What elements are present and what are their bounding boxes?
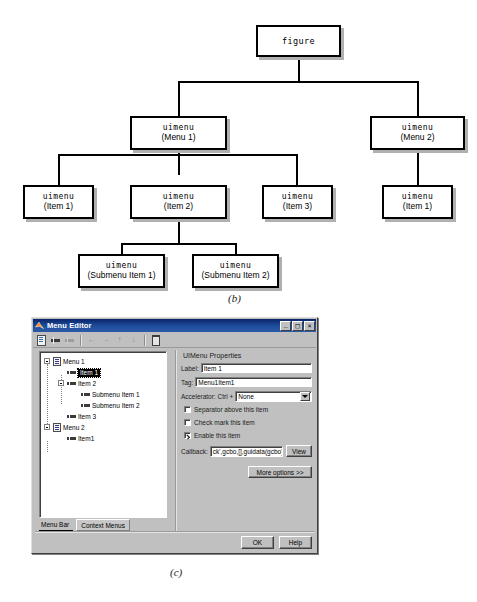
accelerator-value: None — [236, 392, 300, 401]
maximize-glyph: □ — [293, 322, 302, 330]
arrow-right-icon: → — [102, 336, 110, 344]
callback-input[interactable]: ck',gcbo,[],guidata(gcbo)) — [210, 446, 283, 457]
view-button[interactable]: View — [286, 445, 312, 457]
node-item3-label: (Item 3) — [283, 202, 312, 211]
move-up-button[interactable]: ↑ — [113, 334, 126, 347]
node-menu2-label: (Menu 2) — [400, 133, 434, 142]
node-item3-type: uimenu — [282, 193, 313, 201]
expander-placeholder — [71, 390, 80, 399]
enable-label: Enable this item — [194, 432, 240, 439]
tree-row-label: Menu 2 — [63, 424, 85, 432]
separator-checkbox[interactable] — [184, 406, 191, 413]
pane-tabs: Menu Bar Context Menus — [39, 519, 130, 531]
tab-context-menus[interactable]: Context Menus — [76, 519, 130, 531]
uimenu-hierarchy-diagram: figure uimenu (Menu 1) uimenu (Menu 2) u… — [0, 0, 477, 310]
tree-row-item2[interactable]: Item 2 — [43, 378, 166, 389]
edge-menu1-bus — [58, 154, 298, 156]
pane-divider — [175, 350, 177, 533]
window-titlebar[interactable]: Menu Editor _ □ × — [33, 319, 316, 332]
tab-menu-bar[interactable]: Menu Bar — [39, 519, 73, 531]
node-figure-type: figure — [282, 37, 315, 46]
move-left-button[interactable]: ← — [85, 334, 98, 347]
menu-icon — [53, 423, 61, 432]
expander-icon[interactable] — [57, 379, 66, 388]
node-item1-label: (Item 1) — [44, 202, 73, 211]
edge-item2-bus — [121, 243, 236, 245]
minimize-glyph: _ — [281, 322, 290, 330]
close-button[interactable]: × — [304, 321, 315, 331]
edge-item2-down — [178, 219, 180, 244]
maximize-button[interactable]: □ — [292, 321, 303, 331]
properties-pane: UIMenu Properties Label: Item 1 Tag: Men… — [181, 352, 312, 478]
expander-icon[interactable] — [43, 357, 52, 366]
close-glyph: × — [305, 322, 314, 330]
menu-tree-pane[interactable]: Menu 1 Item 1 Item 2 Submenu Item 1 — [39, 351, 167, 518]
properties-title: UIMenu Properties — [183, 352, 312, 359]
move-right-button[interactable]: → — [99, 334, 112, 347]
help-button[interactable]: Help — [279, 536, 312, 549]
node-menu1-type: uimenu — [163, 124, 194, 132]
editor-toolbar: ← → ↑ ↓ — [33, 333, 316, 348]
checkmark-row[interactable]: Check mark this item — [181, 419, 312, 426]
tree-row-label: Submenu Item 2 — [92, 402, 140, 410]
menu-editor-window: Menu Editor _ □ × ← → ↑ ↓ — [31, 317, 318, 554]
move-down-button[interactable]: ↓ — [127, 334, 140, 347]
delete-button[interactable] — [149, 334, 162, 347]
menu-item-icon — [67, 415, 76, 418]
chevron-down-icon[interactable] — [300, 392, 310, 401]
tree-row-submenu-item1[interactable]: Submenu Item 1 — [43, 389, 166, 400]
tree-row-menu2[interactable]: Menu 2 — [43, 422, 166, 433]
new-menu-item-button[interactable] — [49, 334, 62, 347]
menu-item-icon — [67, 371, 76, 374]
edge-figure-bus — [178, 81, 419, 83]
node-item1: uimenu (Item 1) — [23, 185, 94, 219]
edge-figure-down — [298, 57, 300, 82]
separator-label: Separator above this item — [194, 406, 268, 413]
enable-row[interactable]: Enable this item — [181, 432, 312, 439]
enable-checkbox[interactable] — [184, 432, 191, 439]
tree-row-menu2-item1[interactable]: Item1 — [43, 433, 166, 444]
accelerator-select[interactable]: None — [235, 391, 312, 402]
new-menu-icon — [37, 335, 46, 346]
node-menu2-item1-type: uimenu — [402, 193, 433, 201]
menu-icon — [53, 357, 61, 366]
edge-to-item3 — [296, 154, 298, 185]
ok-button[interactable]: OK — [241, 536, 274, 549]
tag-input[interactable]: Menu1Item1 — [195, 377, 312, 387]
callback-row: Callback: ck',gcbo,[],guidata(gcbo)) Vie… — [181, 445, 312, 457]
tree-row-label: Item 1 — [78, 369, 100, 377]
separator-row[interactable]: Separator above this item — [181, 406, 312, 413]
new-menu-button[interactable] — [35, 334, 48, 347]
menu-item-icon — [81, 393, 90, 396]
toolbar-separator-2 — [144, 335, 146, 346]
node-submenu-item2-type: uimenu — [220, 262, 251, 270]
node-menu2-item1: uimenu (Item 1) — [382, 185, 453, 219]
node-item1-type: uimenu — [43, 193, 74, 201]
checkmark-checkbox[interactable] — [184, 419, 191, 426]
more-options-row: More options >> — [181, 461, 312, 478]
edge-to-menu2 — [417, 81, 419, 116]
accelerator-label: Accelerator: Ctrl + — [181, 393, 233, 400]
new-context-menu-button[interactable] — [63, 334, 76, 347]
more-options-button[interactable]: More options >> — [248, 466, 312, 478]
menu-item-icon — [67, 382, 76, 385]
footer-divider — [35, 531, 314, 533]
tree-row-item1[interactable]: Item 1 — [43, 367, 166, 378]
tree-row-label: Menu 1 — [63, 358, 85, 366]
editor-body: Menu 1 Item 1 Item 2 Submenu Item 1 — [33, 348, 316, 552]
node-submenu-item2-label: (Submenu Item 2) — [201, 271, 269, 280]
minimize-button[interactable]: _ — [280, 321, 291, 331]
tree-row-menu1[interactable]: Menu 1 — [43, 356, 166, 367]
tree-row-label: Item 3 — [78, 413, 96, 421]
expander-icon[interactable] — [43, 423, 52, 432]
accelerator-row: Accelerator: Ctrl + None — [181, 391, 312, 402]
label-input[interactable]: Item 1 — [201, 363, 312, 373]
edge-to-item1 — [58, 154, 60, 185]
edge-to-menu1 — [178, 81, 180, 116]
toolbar-separator — [80, 335, 82, 346]
tree-row-label: Item1 — [78, 435, 94, 443]
arrow-down-icon: ↓ — [132, 336, 136, 344]
tree-row-item3[interactable]: Item 3 — [43, 411, 166, 422]
node-menu1: uimenu (Menu 1) — [130, 116, 227, 150]
tree-row-submenu-item2[interactable]: Submenu Item 2 — [43, 400, 166, 411]
